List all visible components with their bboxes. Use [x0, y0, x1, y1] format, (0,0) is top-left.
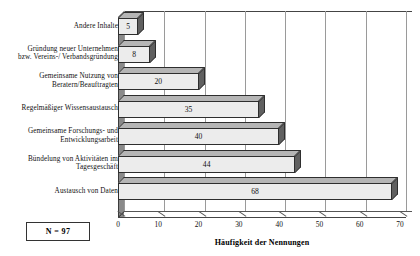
plot-back-floor-line [124, 211, 412, 212]
bar-value-label: 40 [118, 128, 279, 145]
tick-label-0: 0 [107, 220, 129, 229]
x-axis-line [118, 217, 406, 218]
bar-side-face [295, 150, 301, 173]
category-label: Gemeinsame Forschungs- und Entwicklungsa… [28, 127, 118, 144]
bar: 35 [118, 95, 265, 112]
bar-side-face [138, 12, 144, 35]
bar-value-label: 5 [118, 18, 138, 35]
category-label: Andere Inhalte [74, 22, 118, 31]
bar-side-face [150, 40, 156, 63]
category-label: Regelmäßiger Wissensaustausch [22, 104, 119, 113]
bar: 44 [118, 150, 301, 167]
gridline-70 [406, 11, 407, 211]
tick-label-40: 40 [268, 220, 290, 229]
plot-top-border [124, 11, 412, 12]
bar-side-face [392, 177, 398, 200]
bar-value-label: 35 [118, 101, 259, 118]
category-label: Gemeinsame Nutzung von Beratern/Beauftra… [39, 72, 118, 89]
x-axis-title: Häufigkeit der Nennungen [118, 238, 406, 247]
tick-label-70: 70 [389, 220, 411, 229]
tick-label-10: 10 [147, 220, 169, 229]
bar: 8 [118, 40, 156, 57]
bar-value-label: 68 [118, 183, 392, 200]
tick-label-50: 50 [308, 220, 330, 229]
sample-size-box: N = 97 [26, 222, 90, 241]
bar: 68 [118, 177, 398, 194]
bar-value-label: 20 [118, 73, 199, 90]
bar-value-label: 8 [118, 46, 150, 63]
tick-label-60: 60 [349, 220, 371, 229]
bar: 20 [118, 67, 205, 84]
category-label: Bündelung von Aktivitäten im Tagesgeschä… [28, 155, 118, 172]
category-label: Gründung neuer Unternehmen bzw. Vereins-… [18, 45, 118, 62]
bar-chart: 582035404468 Andere InhalteGründung neue… [0, 0, 420, 256]
bar: 40 [118, 122, 285, 139]
bar: 5 [118, 12, 144, 29]
bar-value-label: 44 [118, 156, 295, 173]
tick-label-30: 30 [228, 220, 250, 229]
category-label: Austausch von Daten [55, 187, 118, 196]
tick-label-20: 20 [188, 220, 210, 229]
